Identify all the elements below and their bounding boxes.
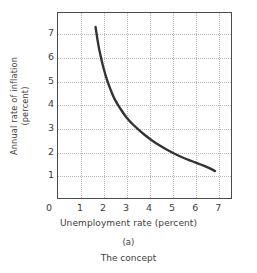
- panel-letter: (a): [0, 237, 257, 247]
- y-tick-label: 7: [40, 28, 54, 38]
- y-tick-label: 6: [40, 52, 54, 62]
- x-axis-tick-labels: 1234567: [57, 202, 232, 216]
- x-tick-label: 5: [164, 202, 180, 213]
- phillips-curve-line: [96, 27, 216, 171]
- x-tick-label: 7: [210, 202, 226, 213]
- plot-area: [57, 12, 232, 199]
- y-axis-title-line2: (percent): [21, 86, 30, 125]
- x-tick-label: 6: [187, 202, 203, 213]
- y-tick-label: 2: [40, 147, 54, 157]
- y-axis-title-line1: Annual rate of inflation: [10, 57, 19, 155]
- y-axis-tick-labels: 1234567: [38, 12, 54, 199]
- y-tick-label: 3: [40, 123, 54, 133]
- curve-layer: [58, 13, 231, 198]
- y-tick-label: 1: [40, 170, 54, 180]
- panel-caption: The concept: [0, 253, 257, 264]
- x-tick-label: 2: [95, 202, 111, 213]
- y-tick-label: 5: [40, 76, 54, 86]
- y-tick-label: 4: [40, 99, 54, 109]
- y-axis-title: Annual rate of inflation (percent): [2, 12, 38, 200]
- x-tick-label: 1: [72, 202, 88, 213]
- figure-container: Annual rate of inflation (percent) 12345…: [0, 0, 257, 273]
- x-tick-label: 3: [118, 202, 134, 213]
- x-axis-origin-label: 0: [42, 202, 56, 213]
- plot-inner: [58, 13, 231, 198]
- x-tick-label: 4: [141, 202, 157, 213]
- x-axis-title: Unemployment rate (percent): [0, 218, 257, 229]
